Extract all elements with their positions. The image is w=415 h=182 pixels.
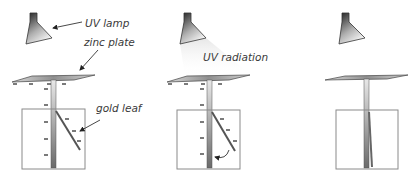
electroscope-diagram: UV lamp zinc plate bbox=[0, 0, 415, 182]
panel-2-discharging: UV radiation bbox=[167, 13, 268, 169]
gold-leaf bbox=[56, 111, 80, 150]
rod-charges bbox=[44, 89, 48, 155]
uv-lamp-label: UV lamp bbox=[85, 17, 130, 29]
gold-leaf-label: gold leaf bbox=[96, 102, 144, 114]
leaf-falling-arrow bbox=[215, 150, 229, 158]
zinc-plate-label: zinc plate bbox=[83, 36, 135, 48]
uv-lamp-icon bbox=[339, 13, 365, 44]
gold-leaf bbox=[212, 112, 235, 151]
leaf-pointer-arrow bbox=[80, 120, 100, 131]
metal-rod bbox=[51, 80, 56, 168]
plate-pointer-arrow bbox=[80, 50, 98, 70]
panel-1-charged: UV lamp zinc plate bbox=[12, 13, 144, 169]
metal-rod bbox=[207, 80, 212, 168]
uv-radiation-label: UV radiation bbox=[203, 51, 268, 63]
rod-charges bbox=[200, 89, 204, 154]
panel-3-discharged bbox=[325, 13, 408, 169]
uv-lamp-icon bbox=[26, 13, 52, 44]
gold-leaf bbox=[369, 112, 372, 167]
metal-rod bbox=[364, 79, 369, 168]
lamp-pointer-arrow bbox=[53, 22, 82, 28]
